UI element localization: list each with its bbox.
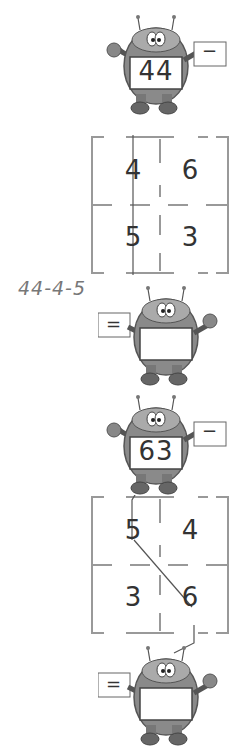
end-operation: = [106, 673, 121, 694]
start-operation: − [202, 40, 217, 61]
grid-cell: 6 [170, 582, 210, 612]
handwritten-answer: 44-4-5 [18, 277, 86, 299]
grid-cell: 4 [170, 515, 210, 545]
grid-cell: 6 [170, 155, 210, 185]
start-operation: − [202, 420, 217, 441]
grid-cell: 5 [113, 222, 153, 252]
end-robot-1: = [98, 283, 208, 393]
end-robot-2: = [98, 643, 208, 750]
grid-cell: 3 [113, 582, 153, 612]
grid-cell: 5 [113, 515, 153, 545]
start-robot-1: 44 − [100, 12, 210, 122]
robot-icon [98, 283, 238, 393]
grid-cell: 3 [170, 222, 210, 252]
start-number: 63 [130, 436, 182, 466]
grid-cell: 4 [113, 155, 153, 185]
end-operation: = [106, 313, 121, 334]
start-number: 44 [130, 56, 182, 86]
start-robot-2: 63 − [100, 392, 210, 502]
robot-icon [98, 643, 238, 750]
